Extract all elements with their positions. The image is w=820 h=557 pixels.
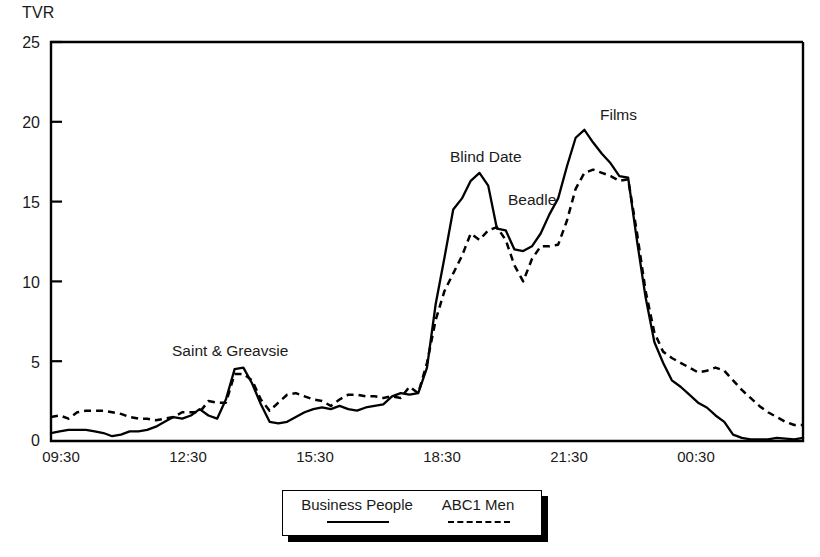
tvr-line-chart: TVR 25 20 15 10 5 0 09:30 12:30 15:30 18… — [0, 0, 820, 557]
plot-area — [0, 0, 820, 557]
series-line-abc1-men — [51, 170, 803, 425]
y-axis-ticks — [51, 42, 62, 361]
annotation-blind-date: Blind Date — [450, 148, 522, 166]
legend-label-abc1-men: ABC1 Men — [424, 496, 532, 513]
annotation-saint-and-greavsie: Saint & Greavsie — [172, 342, 288, 360]
annotation-beadle: Beadle — [508, 191, 556, 209]
legend-label-business-people: Business People — [292, 496, 422, 513]
axis-frame — [51, 42, 803, 441]
annotation-films: Films — [600, 106, 637, 124]
series-line-business-people — [51, 130, 803, 440]
legend-swatch-dashed — [448, 521, 510, 523]
legend-swatch-solid — [327, 521, 389, 523]
